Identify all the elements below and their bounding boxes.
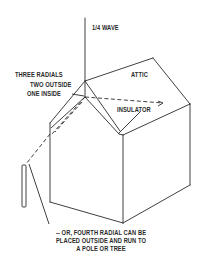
label-two-outside: TWO OUTSIDE: [30, 81, 71, 89]
label-one-inside: ONE INSIDE: [27, 90, 61, 98]
label-insulator: INSULATOR: [117, 106, 151, 114]
antenna-diagram: 1/4 WAVE ATTIC THREE RADIALS TWO OUTSIDE…: [0, 0, 202, 268]
gable-right-inner: [85, 97, 119, 134]
front-eave-joint: [119, 134, 123, 135]
note-leader: [29, 164, 49, 224]
label-quarter-wave: 1/4 WAVE: [92, 24, 119, 32]
pole: [22, 165, 26, 207]
house-drawing: [0, 0, 202, 268]
roof-back-edge: [153, 58, 190, 104]
side-wall-bottom: [123, 185, 190, 223]
radial-outside-1: [52, 97, 85, 134]
label-attic: ATTIC: [131, 71, 148, 79]
note-line-2: PLACED OUTSIDE AND RUN TO: [18, 237, 184, 245]
note-line-3: A POLE OR TREE: [18, 245, 184, 253]
radial-outside-2: [55, 102, 82, 132]
label-three-radials: THREE RADIALS: [15, 71, 63, 79]
note-line-1: -- OR, FOURTH RADIAL CAN BE: [18, 229, 184, 237]
insulator-leader: [119, 112, 140, 133]
radial-to-pole: [26, 134, 50, 164]
inside-radial-arrow: [158, 101, 163, 106]
front-wall-bottom: [50, 202, 123, 223]
gable-right: [85, 81, 120, 131]
